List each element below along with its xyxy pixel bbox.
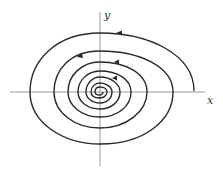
phase-portrait: x y bbox=[0, 0, 223, 181]
y-axis-label: y bbox=[103, 9, 111, 22]
arrow-icon bbox=[116, 31, 122, 36]
spiral-trajectory bbox=[30, 33, 194, 144]
x-axis-label: x bbox=[207, 94, 214, 107]
